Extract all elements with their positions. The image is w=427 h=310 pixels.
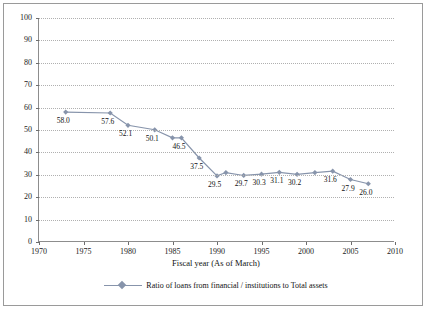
data-point-label: 29.5	[208, 181, 221, 189]
y-tick-mark	[36, 152, 39, 153]
data-point-label: 58.0	[57, 117, 70, 125]
x-tick-label: 1975	[69, 248, 99, 256]
data-point-label: 30.2	[288, 179, 301, 187]
y-tick-label: 20	[12, 193, 32, 201]
x-tick-mark	[262, 242, 263, 245]
y-tick-label: 30	[12, 171, 32, 179]
x-tick-label: 1970	[24, 248, 54, 256]
y-gridline	[39, 130, 394, 131]
x-tick-label: 1995	[247, 248, 277, 256]
y-tick-mark	[36, 220, 39, 221]
y-gridline	[39, 197, 394, 198]
legend-label: Ratio of loans from financial / institut…	[146, 281, 327, 290]
y-tick-label: 90	[12, 36, 32, 44]
y-tick-mark	[36, 108, 39, 109]
x-tick-mark	[217, 242, 218, 245]
y-tick-mark	[36, 18, 39, 19]
y-tick-label: 10	[12, 216, 32, 224]
y-gridline	[39, 85, 394, 86]
data-point-label: 52.1	[119, 130, 132, 138]
y-tick-label: 100	[12, 14, 32, 22]
data-point-label: 29.7	[235, 180, 248, 188]
x-axis-title: Fiscal year (As of March)	[38, 258, 394, 268]
x-tick-mark	[39, 242, 40, 245]
y-gridline	[39, 152, 394, 153]
y-tick-mark	[36, 63, 39, 64]
plot-area: 0102030405060708090100197019751980198519…	[38, 18, 394, 242]
data-point-label: 27.9	[342, 185, 355, 193]
y-tick-label: 60	[12, 104, 32, 112]
y-gridline	[39, 220, 394, 221]
x-tick-mark	[395, 242, 396, 245]
data-point-label: 31.6	[324, 176, 337, 184]
x-tick-mark	[84, 242, 85, 245]
y-tick-mark	[36, 175, 39, 176]
chart-frame: 0102030405060708090100197019751980198519…	[3, 3, 423, 306]
data-point-label: 26.0	[359, 189, 372, 197]
x-tick-label: 2010	[380, 248, 410, 256]
x-tick-label: 1980	[113, 248, 143, 256]
y-tick-label: 70	[12, 81, 32, 89]
data-point-label: 50.1	[146, 135, 159, 143]
data-point-label: 30.3	[253, 179, 266, 187]
y-gridline	[39, 63, 394, 64]
y-gridline	[39, 18, 394, 19]
y-tick-mark	[36, 197, 39, 198]
y-tick-label: 80	[12, 59, 32, 67]
x-tick-label: 2000	[291, 248, 321, 256]
x-tick-mark	[128, 242, 129, 245]
data-point-label: 31.1	[270, 177, 283, 185]
y-tick-label: 0	[12, 238, 32, 246]
chart-legend: Ratio of loans from financial / institut…	[38, 281, 394, 290]
legend-marker-icon	[104, 281, 142, 290]
x-tick-label: 1985	[158, 248, 188, 256]
x-tick-label: 1990	[202, 248, 232, 256]
data-point-label: 57.6	[101, 118, 114, 126]
y-tick-label: 50	[12, 126, 32, 134]
y-gridline	[39, 108, 394, 109]
x-tick-mark	[173, 242, 174, 245]
y-tick-mark	[36, 40, 39, 41]
x-tick-mark	[351, 242, 352, 245]
x-tick-mark	[306, 242, 307, 245]
chart-container: 0102030405060708090100197019751980198519…	[0, 0, 427, 310]
y-tick-mark	[36, 130, 39, 131]
data-point-label: 37.5	[190, 163, 203, 171]
y-tick-mark	[36, 85, 39, 86]
x-tick-label: 2005	[336, 248, 366, 256]
y-gridline	[39, 175, 394, 176]
data-point-label: 46.5	[172, 143, 185, 151]
y-tick-label: 40	[12, 148, 32, 156]
y-gridline	[39, 40, 394, 41]
